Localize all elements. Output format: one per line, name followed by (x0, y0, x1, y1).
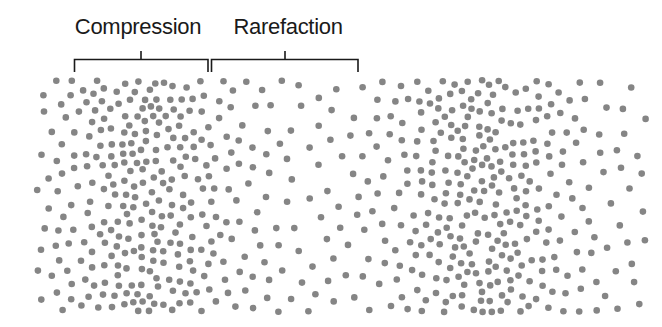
particle-dot (102, 280, 109, 287)
particle-dot (503, 209, 510, 216)
particle-dot (475, 230, 482, 237)
particle-dot (93, 154, 100, 161)
particle-dot (492, 263, 499, 270)
particle-dot (49, 272, 56, 279)
particle-dot (59, 307, 66, 314)
particle-dot (604, 245, 611, 252)
particle-dot (419, 308, 426, 315)
particle-dot (45, 205, 52, 212)
particle-dot (129, 150, 136, 157)
particle-dot (123, 191, 130, 198)
particle-dot (399, 137, 406, 144)
particle-dot (69, 78, 76, 85)
particle-dot (232, 303, 239, 310)
particle-dot (138, 217, 145, 224)
particle-dot (115, 272, 122, 279)
particle-dot (279, 77, 286, 84)
particle-dot (213, 298, 220, 305)
particle-dot (295, 82, 302, 89)
particle-dot (84, 210, 91, 217)
particle-dot (433, 290, 440, 297)
particle-dot (446, 215, 453, 222)
particle-dot (626, 185, 633, 192)
particle-dot (225, 290, 232, 297)
particle-dot (131, 183, 138, 190)
particle-dot (127, 96, 134, 103)
particle-dot (241, 253, 248, 260)
particle-dot (458, 303, 465, 310)
particle-dot (110, 181, 117, 188)
particle-dot (433, 275, 440, 282)
particle-dot (574, 249, 581, 256)
particle-dot (404, 167, 411, 174)
particle-dot (189, 96, 196, 103)
particle-dot (169, 202, 176, 209)
particle-dot (418, 109, 425, 116)
particle-dot (128, 140, 135, 147)
particle-dot (65, 240, 72, 247)
particle-dot (441, 309, 448, 316)
particle-dot (208, 238, 215, 245)
particle-dot (459, 292, 466, 299)
particle-dot (324, 236, 331, 243)
particle-dot (176, 300, 183, 307)
particle-dot (533, 228, 540, 235)
particle-dot (58, 101, 65, 108)
particle-dot (498, 307, 505, 314)
particle-dot (250, 164, 257, 171)
particle-dot (573, 139, 580, 146)
particle-dot (266, 277, 273, 284)
particle-dot (201, 93, 208, 100)
particle-dot (479, 289, 486, 296)
particle-dot (109, 304, 116, 311)
particle-dot (517, 121, 524, 128)
particle-dot (116, 233, 123, 240)
particle-dot (481, 215, 488, 222)
particle-dot (120, 203, 127, 210)
particle-dot (492, 146, 499, 153)
particle-dot (459, 88, 466, 95)
compression-bracket (75, 51, 209, 72)
particle-dot (523, 162, 530, 169)
particle-dot (533, 117, 540, 124)
particle-dot (119, 141, 126, 148)
particle-dot (151, 300, 158, 307)
particle-dot (265, 128, 272, 135)
particle-dot (115, 101, 122, 108)
particle-dot (480, 143, 487, 150)
particle-dot (539, 282, 546, 289)
particle-dot (455, 274, 462, 281)
particle-dot (579, 266, 586, 273)
particle-dot (454, 128, 461, 135)
particle-dot (476, 280, 483, 287)
particle-dot (158, 168, 165, 175)
particle-dot (508, 120, 515, 127)
particle-dot (84, 163, 91, 170)
particle-dot (476, 123, 483, 130)
particle-dot (132, 89, 139, 96)
particle-dot (169, 83, 176, 90)
particle-dot (108, 253, 115, 260)
particle-dot (87, 199, 94, 206)
particle-dot (169, 307, 176, 314)
particle-dot (475, 90, 482, 97)
particle-dot (418, 167, 425, 174)
particle-dot (291, 225, 298, 232)
particle-dot (413, 252, 420, 259)
particle-dot (277, 140, 284, 147)
particle-dot (418, 126, 425, 133)
particle-dot (355, 194, 362, 201)
particle-dot (223, 219, 230, 226)
particle-dot (67, 92, 74, 99)
particle-dot (514, 108, 521, 115)
particle-dot (158, 224, 165, 231)
particle-dot (330, 298, 337, 305)
particle-dot (486, 258, 493, 265)
particle-dot (572, 115, 579, 122)
particle-dot (464, 212, 471, 219)
particle-dot (396, 190, 403, 197)
particle-dot (212, 155, 219, 162)
particle-dot (495, 78, 502, 85)
particle-dot (517, 222, 524, 229)
particle-dot (205, 261, 212, 268)
